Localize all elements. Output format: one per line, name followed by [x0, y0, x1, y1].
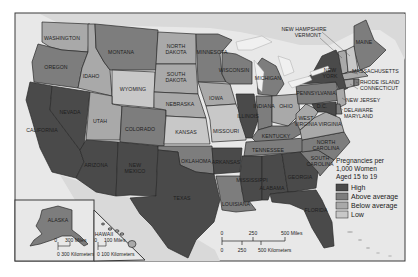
- label-kansas: KANSAS: [175, 129, 197, 135]
- label-texas: TEXAS: [173, 195, 191, 201]
- label-vermont: VERMONT: [295, 32, 322, 38]
- label-dc: D.C.: [317, 103, 328, 109]
- label-colorado: COLORADO: [125, 126, 155, 132]
- legend-swatch-above-average: [336, 193, 348, 200]
- legend-swatch-low: [336, 211, 348, 218]
- label-arizona: ARIZONA: [84, 162, 108, 168]
- label-virginia: VIRGINIA: [318, 121, 342, 127]
- label-maryland: MARYLAND: [344, 113, 373, 119]
- legend-label-high: High: [351, 184, 366, 192]
- svg-text:250: 250: [249, 230, 258, 236]
- svg-text:0: 0: [54, 237, 57, 243]
- label-south-carolina-2: CAROLINA: [307, 161, 334, 167]
- label-west-virginia-2: VIRGINIA: [294, 121, 318, 127]
- svg-text:300 Miles: 300 Miles: [65, 237, 87, 243]
- svg-text:0: 0: [221, 247, 224, 253]
- label-nevada: NEVADA: [59, 109, 81, 115]
- label-south-dakota-2: DAKOTA: [165, 77, 187, 83]
- label-indiana: INDIANA: [253, 103, 275, 109]
- label-new-jersey: NEW JERSEY: [346, 97, 381, 103]
- label-montana: MONTANA: [108, 49, 134, 55]
- label-alaska: ALASKA: [48, 217, 69, 223]
- state-montana[interactable]: [95, 24, 158, 70]
- teen-pregnancy-map: WASHINGTON OREGON CALIFORNIA NEVADA IDAH…: [0, 0, 418, 277]
- label-new-york-2: YORK: [323, 73, 338, 79]
- label-massachusetts: MASSACHUSETTS: [352, 68, 399, 74]
- label-california: CALIFORNIA: [26, 127, 58, 133]
- svg-text:500 Kilometers: 500 Kilometers: [258, 247, 292, 253]
- label-minnesota: MINNESOTA: [197, 49, 228, 55]
- svg-text:250: 250: [238, 247, 247, 253]
- label-ohio: OHIO: [279, 103, 292, 109]
- label-wisconsin: WISCONSIN: [219, 67, 250, 73]
- label-oregon: OREGON: [44, 64, 68, 70]
- label-washington: WASHINGTON: [44, 35, 80, 41]
- label-louisiana: LOUISIANA: [222, 201, 251, 207]
- svg-text:0: 0: [221, 230, 224, 236]
- label-utah: UTAH: [93, 118, 107, 124]
- label-alabama: ALABAMA: [260, 185, 285, 191]
- label-georgia: GEORGIA: [288, 174, 313, 180]
- label-iowa: IOWA: [209, 95, 223, 101]
- legend-title-1: Pregnancies per: [336, 157, 385, 165]
- label-north-carolina-2: CAROLINA: [313, 145, 340, 151]
- legend-label-below-average: Below average: [351, 202, 397, 210]
- label-illinois: ILLINOIS: [237, 113, 259, 119]
- label-missouri: MISSOURI: [213, 128, 239, 134]
- legend-swatch-below-average: [336, 202, 348, 209]
- label-idaho: IDAHO: [83, 73, 100, 79]
- label-oklahoma: OKLAHOMA: [181, 158, 211, 164]
- legend-title-3: Aged 15 to 19: [336, 173, 377, 181]
- legend-label-above-average: Above average: [351, 193, 398, 201]
- label-nebraska: NEBRASKA: [166, 101, 195, 107]
- legend-title-2: 1,000 Women: [336, 165, 377, 172]
- label-michigan: MICHIGAN: [255, 75, 282, 81]
- label-connecticut: CONNECTICUT: [360, 85, 399, 91]
- svg-text:500 Miles: 500 Miles: [281, 230, 303, 236]
- label-arkansas: ARKANSAS: [212, 159, 241, 165]
- alaska-inset: ALASKA 0 300 Miles 0 300 Kilometers: [15, 200, 95, 261]
- label-pennsylvania: PENNSYLVANIA: [296, 90, 336, 96]
- svg-text:0 300 Kilometers: 0 300 Kilometers: [57, 251, 95, 257]
- state-connecticut[interactable]: [344, 79, 354, 88]
- label-kentucky: KENTUCKY: [262, 133, 291, 139]
- label-new-mexico-2: MEXICO: [125, 168, 146, 174]
- label-mississippi: MISSISSIPPI: [236, 177, 267, 183]
- label-tennessee: TENNESSEE: [252, 147, 284, 153]
- label-north-dakota-2: DAKOTA: [165, 49, 187, 55]
- svg-text:0 100 Kilometers: 0 100 Kilometers: [97, 251, 135, 257]
- svg-text:100 Miles: 100 Miles: [104, 237, 126, 243]
- label-maine: MAINE: [356, 39, 373, 45]
- label-wyoming: WYOMING: [120, 86, 146, 92]
- svg-text:0: 0: [94, 237, 97, 243]
- legend-swatch-high: [336, 184, 348, 191]
- state-rhode-island[interactable]: [354, 79, 359, 86]
- legend-label-low: Low: [351, 211, 365, 218]
- label-florida: FLORIDA: [305, 207, 328, 213]
